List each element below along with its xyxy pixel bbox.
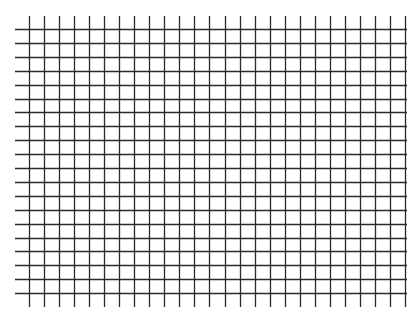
vertical-grid-lines: [30, 16, 406, 307]
grid-paper: [0, 0, 418, 318]
horizontal-grid-lines: [15, 30, 407, 294]
